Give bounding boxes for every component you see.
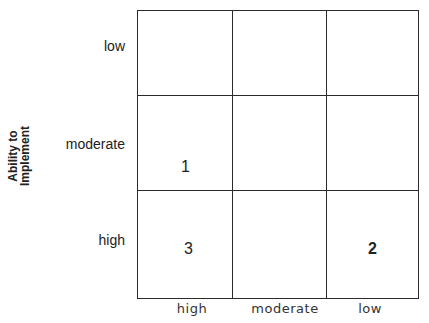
col-label-low: low — [340, 301, 400, 316]
row-label-high: high — [5, 232, 125, 248]
row-label-moderate: moderate — [5, 136, 125, 152]
axis-title-ability-to-implement: Ability to Implement — [7, 126, 31, 186]
grid-hline-2 — [138, 190, 418, 191]
col-label-high: high — [160, 301, 224, 316]
cell-high-high-value: 3 — [184, 240, 193, 258]
cell-moderate-high-value: 1 — [181, 158, 190, 176]
grid-vline-1 — [232, 11, 233, 298]
col-label-moderate: moderate — [240, 301, 330, 316]
grid-vline-2 — [326, 11, 327, 298]
row-label-low: low — [5, 38, 125, 54]
grid-hline-1 — [138, 95, 418, 96]
cell-high-low-value: 2 — [368, 240, 377, 258]
axis-title-line2: Implement — [19, 126, 31, 186]
